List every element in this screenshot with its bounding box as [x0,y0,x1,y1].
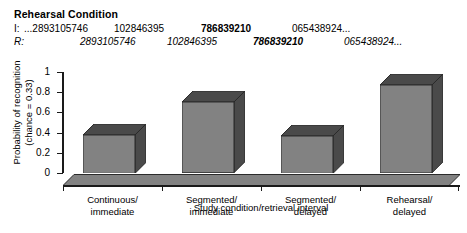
y-axis-tick-label: 0.6 [36,107,50,117]
y-axis-tick: 0.2 [57,153,63,154]
y-axis-label: Probability of recognition (chance = 0.3… [11,50,34,175]
y-axis-line [62,72,64,173]
sequence-row-recall: R: 2893105746 102846395 786839210 065438… [14,35,454,48]
sequence-row-label-r: R: [14,35,24,48]
sequence-token: 065438924... [292,22,350,35]
x-axis-tick [63,185,64,191]
y-axis-tick-label: 0.2 [36,148,50,158]
sequence-token-highlighted: 786839210 [201,22,251,35]
y-axis-tick: 0.6 [57,112,63,113]
y-axis-label-line1: Probability of recognition [11,60,22,164]
y-axis-tick: 0.8 [57,92,63,93]
bar [380,74,443,173]
y-axis-tick-label: 0.4 [36,128,50,138]
y-axis-tick: 1 [57,72,63,73]
sequence-token: 102846395 [114,22,164,35]
sequence-row-label-i: I: [14,22,20,35]
bar [182,91,245,173]
rehearsal-condition-header: Rehearsal Condition I: ...2893105746 102… [14,8,454,48]
y-axis-tick-label: 0.8 [36,87,50,97]
y-axis-tick-label: 0 [44,168,50,178]
sequence-token: 065438924... [344,35,402,48]
bar [281,125,344,173]
bar-chart: Probability of recognition (chance = 0.3… [0,56,467,233]
y-axis-label-line2: (chance = 0.33) [23,50,35,175]
x-axis-tick [458,185,459,191]
x-axis-label: Study condition/retrieval interval [62,202,460,213]
page-title: Rehearsal Condition [14,8,454,21]
bar [83,124,146,173]
x-axis-tick [261,185,262,191]
sequence-row-input: I: ...2893105746 102846395 786839210 065… [14,22,454,35]
sequence-token: 102846395 [167,35,217,48]
chart-floor-platform [63,173,460,185]
x-axis-tick [360,185,361,191]
sequence-token: 2893105746 [80,35,136,48]
sequence-token: ...2893105746 [24,22,88,35]
x-axis-tick [162,185,163,191]
y-axis-tick: 0.4 [57,133,63,134]
plot-area: 0 0.2 0.4 0.6 0.8 1 [62,72,460,173]
sequence-token-highlighted: 786839210 [253,35,303,48]
y-axis-tick-label: 1 [44,67,50,77]
